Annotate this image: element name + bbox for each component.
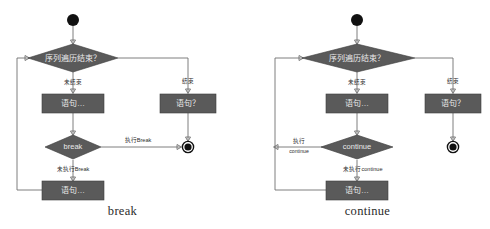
continue-body-statement-node: 语句…: [326, 94, 388, 113]
break-condition-node: 序列遍历结束？: [28, 44, 118, 72]
break-exit-statement-node: 语句？: [160, 94, 216, 113]
break-keyword-not-taken-label: 未执行Break: [57, 165, 90, 173]
edge-loop-back: [17, 58, 42, 190]
break-caption: break: [0, 204, 245, 219]
flowchart-panel-break: 序列遍历结束？ 未结束 结束 语句… 语句？ break 执行Brea: [0, 0, 245, 229]
break-body-statement-label: 语句…: [61, 98, 85, 108]
edge-condition-to-exit: [118, 58, 188, 92]
break-body-statement-node: 语句…: [42, 94, 104, 113]
continue-condition-node: 序列遍历结束？: [302, 44, 415, 72]
break-keyword-decision-node: break: [45, 135, 101, 159]
break-tail-statement-node: 语句…: [42, 181, 104, 200]
continue-start-node: [351, 14, 363, 26]
continue-exit-statement-node: 语句？: [425, 94, 481, 113]
flowchart-figure: 序列遍历结束？ 未结束 结束 语句… 语句？ break 执行Brea: [0, 0, 490, 229]
continue-branch-true-label: 结束: [447, 77, 459, 85]
break-branch-true-label: 结束: [182, 77, 194, 85]
continue-keyword-decision-label: continue: [343, 142, 371, 151]
continue-end-node-exit: [447, 141, 458, 152]
continue-keyword-not-taken-label: 未执行continue: [343, 165, 382, 173]
break-condition-label: 序列遍历结束？: [45, 53, 101, 63]
break-flow-diagram: 序列遍历结束？ 未结束 结束 语句… 语句？ break 执行Brea: [0, 0, 245, 229]
continue-body-statement-label: 语句…: [345, 98, 369, 108]
flowchart-panel-continue: 序列遍历结束？ 未结束 结束 语句… 语句？ continue 执行: [245, 0, 490, 229]
break-branch-false-label: 未结束: [64, 78, 82, 86]
break-end-node-keyword: [182, 141, 193, 152]
continue-caption: continue: [245, 204, 490, 219]
break-start-node: [67, 14, 79, 26]
continue-keyword-taken-label-line1: 执行: [293, 137, 305, 145]
continue-keyword-decision-node: continue: [321, 135, 393, 159]
continue-keyword-taken-label-line2: continue: [289, 148, 309, 154]
continue-flow-diagram: 序列遍历结束？ 未结束 结束 语句… 语句？ continue 执行: [245, 0, 490, 229]
continue-tail-statement-node: 语句…: [326, 181, 388, 200]
edge-loop-back: [275, 58, 326, 190]
continue-branch-false-label: 未结束: [348, 78, 366, 86]
continue-exit-statement-label: 语句？: [441, 98, 465, 108]
edge-condition-to-exit: [415, 58, 453, 92]
break-tail-statement-label: 语句…: [61, 185, 85, 195]
break-exit-statement-label: 语句？: [176, 98, 200, 108]
continue-condition-label: 序列遍历结束？: [329, 53, 385, 63]
break-keyword-taken-label: 执行Break: [125, 136, 152, 144]
continue-tail-statement-label: 语句…: [345, 185, 369, 195]
break-keyword-decision-label: break: [64, 142, 83, 151]
